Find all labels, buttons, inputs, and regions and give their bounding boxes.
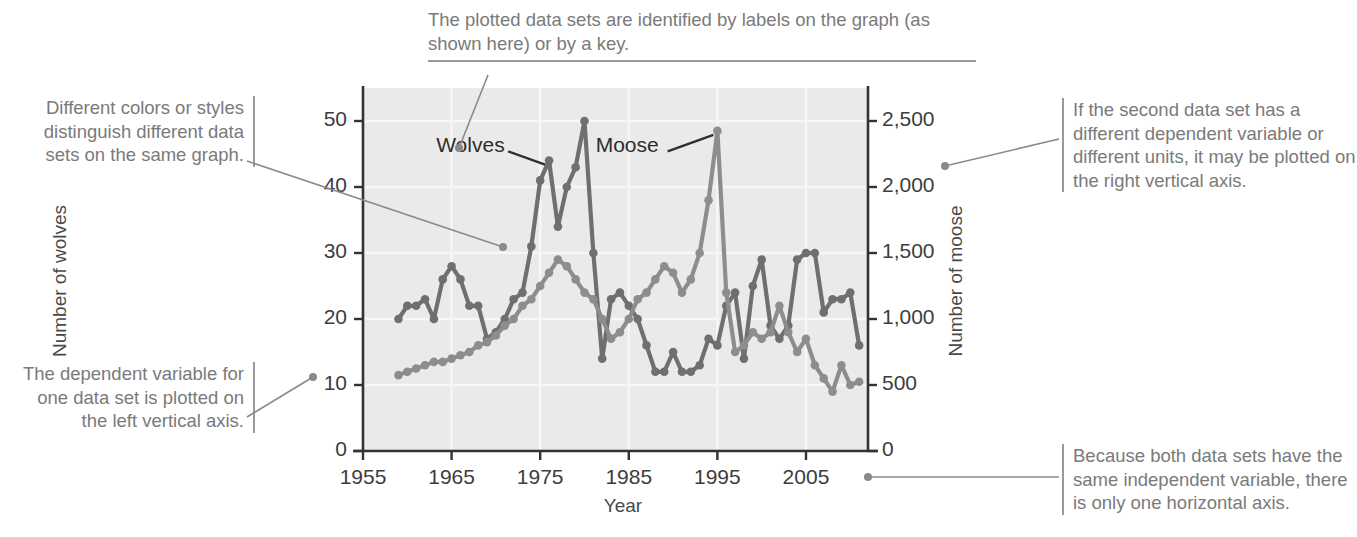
annotation-horizontal-axis: Because both data sets have the same ind… xyxy=(1062,444,1357,515)
series-label-moose: Moose xyxy=(596,133,659,157)
left-y-axis-title: Number of wolves xyxy=(49,191,71,371)
x-axis-tick-label: 1975 xyxy=(505,465,575,489)
left-axis-tick-label: 10 xyxy=(289,371,347,395)
x-axis-tick-label: 1985 xyxy=(594,465,664,489)
right-axis-tick-label: 500 xyxy=(882,371,952,395)
x-axis-tick-label: 1995 xyxy=(682,465,752,489)
right-y-axis-title: Number of moose xyxy=(945,191,967,371)
right-axis-tick-label: 0 xyxy=(882,437,952,461)
left-axis-tick-label: 40 xyxy=(289,173,347,197)
right-axis-tick-label: 2,000 xyxy=(882,173,952,197)
annotation-data-set-labels: The plotted data sets are identified by … xyxy=(428,8,976,62)
left-axis-tick-label: 0 xyxy=(289,437,347,461)
annotation-right-vertical-axis: If the second data set has a different d… xyxy=(1062,98,1357,192)
right-axis-tick-label: 1,500 xyxy=(882,239,952,263)
annotation-different-styles: Different colors or styles distinguish d… xyxy=(16,96,255,167)
x-axis-tick-label: 1955 xyxy=(328,465,398,489)
left-axis-tick-label: 50 xyxy=(289,107,347,131)
x-axis-tick-label: 2005 xyxy=(771,465,841,489)
x-axis-tick-label: 1965 xyxy=(417,465,487,489)
left-axis-tick-label: 30 xyxy=(289,239,347,263)
right-axis-tick-label: 2,500 xyxy=(882,107,952,131)
x-axis-title: Year xyxy=(563,495,683,517)
right-axis-tick-label: 1,000 xyxy=(882,305,952,329)
series-label-wolves: Wolves xyxy=(436,133,504,157)
left-axis-tick-label: 20 xyxy=(289,305,347,329)
annotation-left-vertical-axis: The dependent variable for one data set … xyxy=(16,362,255,433)
